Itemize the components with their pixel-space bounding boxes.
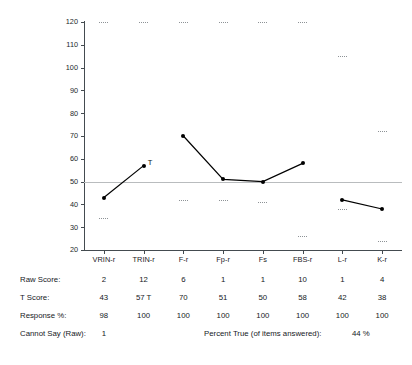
y-tick-label: 90 (52, 87, 78, 94)
x-tick-mark (382, 250, 383, 254)
series-segment (104, 166, 144, 198)
row-label: Response %: (20, 312, 66, 320)
y-tick-label: 80 (52, 110, 78, 117)
profile-report-page: 1201101009080706050403020 T VRIN-rTRIN-r… (0, 0, 412, 365)
cell-k-r: 100 (359, 312, 405, 320)
data-point-vrin-r (102, 196, 106, 200)
series-segment (183, 136, 302, 182)
y-tick-label: 60 (52, 155, 78, 162)
y-tick-label: 70 (52, 132, 78, 139)
data-point-fs (261, 180, 265, 184)
x-tick-mark (342, 250, 343, 254)
x-tick-mark (144, 250, 145, 254)
series-segment (342, 200, 382, 209)
data-point-trin-r (142, 164, 146, 168)
cannot-say-label: Cannot Say (Raw): (20, 330, 86, 338)
validity-scale-profile-chart: 1201101009080706050403020 T (84, 22, 402, 250)
y-tick-label: 110 (52, 41, 78, 48)
table-row: Raw Score:2126111014 (0, 276, 412, 294)
x-tick-mark (183, 250, 184, 254)
trin-direction-flag: T (148, 159, 153, 167)
y-tick-mark (81, 250, 85, 251)
table-row: Response %:98100100100100100100100 (0, 312, 412, 330)
y-tick-label: 100 (52, 64, 78, 71)
percent-true-label: Percent True (of items answered): (204, 330, 321, 338)
x-tick-mark (223, 250, 224, 254)
x-tick-mark (263, 250, 264, 254)
y-tick-label: 40 (52, 201, 78, 208)
row-label: Raw Score: (20, 276, 60, 284)
y-tick-label: 120 (52, 18, 78, 25)
x-tick-mark (104, 250, 105, 254)
y-tick-label: 20 (52, 246, 78, 253)
t-score-line-series (84, 22, 402, 250)
score-summary-table: Raw Score:2126111014T Score:4357 T705150… (0, 276, 412, 348)
cell-k-r: 38 (359, 294, 405, 302)
y-tick-label: 50 (52, 178, 78, 185)
cell-k-r: 4 (359, 276, 405, 284)
cannot-say-value: 1 (81, 330, 127, 338)
row-label: T Score: (20, 294, 49, 302)
x-tick-mark (303, 250, 304, 254)
percent-true-value: 44 % (352, 330, 370, 338)
y-tick-label: 30 (52, 224, 78, 231)
table-row: T Score:4357 T705150584238 (0, 294, 412, 312)
scale-label-k-r: K-r (358, 256, 406, 263)
table-row-summary: Cannot Say (Raw):1Percent True (of items… (0, 330, 412, 348)
